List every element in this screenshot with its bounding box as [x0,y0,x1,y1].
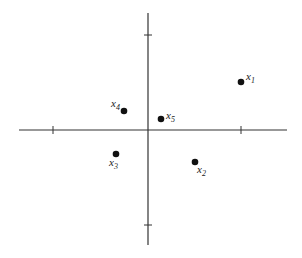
scatter-diagram: x1x2x3x4x5 [0,0,302,258]
point-label-x5: x5 [165,109,175,124]
point-label-x2: x2 [196,163,206,178]
point-label-x1: x1 [245,70,255,85]
data-point-x5 [158,116,165,123]
point-label-x3: x3 [108,156,118,171]
point-label-x4: x4 [110,97,120,112]
data-point-x4 [121,108,128,115]
data-point-x1 [238,79,245,86]
